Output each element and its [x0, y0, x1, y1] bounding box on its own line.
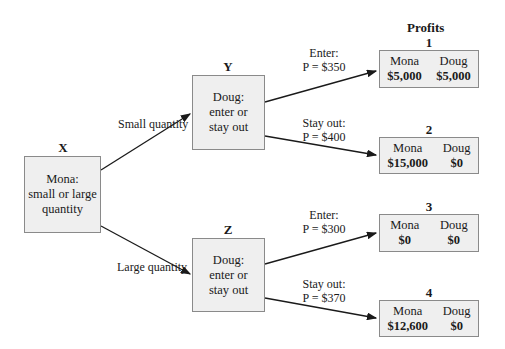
- node-y-line: enter or: [209, 105, 248, 120]
- outcome-3-number: 3: [419, 199, 439, 215]
- branch-z-stay: Stay out: P = $370: [294, 277, 354, 305]
- branch-z-enter-price: P = $300: [296, 222, 352, 236]
- outcome-3-value1: $0: [390, 233, 419, 248]
- node-y-line: Doug:: [209, 90, 248, 105]
- node-z-line: enter or: [209, 268, 248, 283]
- outcome-1-number: 1: [419, 35, 439, 51]
- outcome-3-box: Mona$0 Doug$0: [379, 214, 479, 252]
- node-z-label: Z: [218, 222, 238, 238]
- outcome-2-value2: $0: [443, 156, 471, 171]
- outcome-1-box: Mona$5,000 Doug$5,000: [379, 50, 479, 88]
- outcome-1-player1: Mona: [387, 54, 421, 69]
- outcome-3-player1: Mona: [390, 218, 419, 233]
- node-y-box: Doug: enter or stay out: [192, 75, 265, 150]
- node-y-line: stay out: [209, 120, 248, 135]
- branch-z-enter-action: Enter:: [296, 208, 352, 222]
- branch-z-enter: Enter: P = $300: [296, 208, 352, 236]
- branch-y-enter: Enter: P = $350: [296, 46, 352, 74]
- node-z-line: stay out: [209, 283, 248, 298]
- outcome-1-value1: $5,000: [387, 69, 421, 84]
- outcome-4-value1: $12,600: [387, 319, 428, 334]
- node-x-box: Mona: small or large quantity: [24, 156, 101, 233]
- edge-y-enter: [265, 71, 376, 102]
- outcome-2-box: Mona$15,000 Doug$0: [379, 137, 479, 174]
- outcome-2-value1: $15,000: [387, 156, 428, 171]
- outcome-2-number: 2: [419, 122, 439, 138]
- outcome-1-value2: $5,000: [436, 69, 470, 84]
- outcome-4-number: 4: [419, 285, 439, 301]
- node-x-line: small or large: [28, 187, 97, 202]
- node-x-line: quantity: [28, 202, 97, 217]
- node-x-label: X: [53, 140, 73, 156]
- branch-y-stay-price: P = $400: [294, 130, 354, 144]
- outcome-3-player2: Doug: [440, 218, 468, 233]
- node-y-label: Y: [218, 59, 238, 75]
- outcome-4-value2: $0: [443, 319, 471, 334]
- outcome-4-player1: Mona: [387, 304, 428, 319]
- branch-y-enter-action: Enter:: [296, 46, 352, 60]
- outcome-1-player2: Doug: [436, 54, 470, 69]
- node-x-line: Mona:: [28, 172, 97, 187]
- outcome-2-player1: Mona: [387, 141, 428, 156]
- branch-y-stay: Stay out: P = $400: [294, 116, 354, 144]
- branch-small-quantity: Small quantity: [118, 117, 188, 131]
- outcome-4-player2: Doug: [443, 304, 471, 319]
- profits-title: Profits: [407, 20, 444, 36]
- branch-z-stay-price: P = $370: [294, 291, 354, 305]
- branch-y-stay-action: Stay out:: [294, 116, 354, 130]
- outcome-3-value2: $0: [440, 233, 468, 248]
- edge-z-enter: [265, 233, 376, 264]
- branch-z-stay-action: Stay out:: [294, 277, 354, 291]
- branch-y-enter-price: P = $350: [296, 60, 352, 74]
- node-z-box: Doug: enter or stay out: [192, 238, 265, 312]
- node-z-line: Doug:: [209, 253, 248, 268]
- outcome-2-player2: Doug: [443, 141, 471, 156]
- outcome-4-box: Mona$12,600 Doug$0: [379, 300, 479, 337]
- branch-large-quantity: Large quantity: [117, 260, 187, 274]
